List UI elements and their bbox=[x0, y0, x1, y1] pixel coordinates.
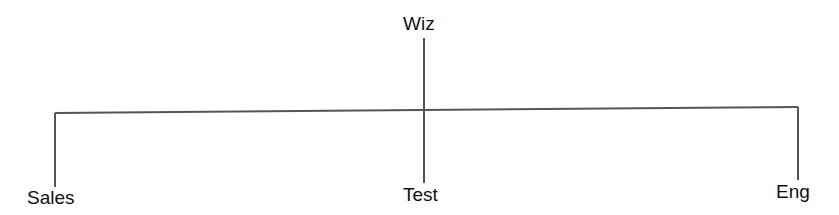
node-sales: Sales bbox=[27, 188, 75, 207]
node-wiz: Wiz bbox=[403, 14, 435, 33]
node-eng: Eng bbox=[776, 182, 810, 201]
horizontal-bus-line bbox=[55, 107, 798, 113]
node-test: Test bbox=[403, 185, 438, 204]
